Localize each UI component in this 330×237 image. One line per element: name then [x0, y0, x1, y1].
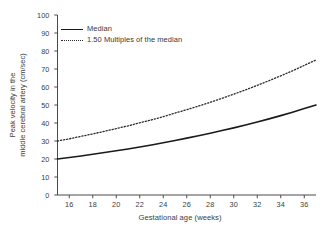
axis-lines — [58, 15, 317, 195]
axis-tick-marks — [54, 15, 304, 198]
chart-figure: Peak velocity in the middle cerebral art… — [0, 0, 330, 237]
series-line — [58, 60, 317, 141]
series-line — [58, 105, 317, 159]
plot-area — [0, 0, 330, 237]
data-series-lines — [58, 60, 317, 159]
